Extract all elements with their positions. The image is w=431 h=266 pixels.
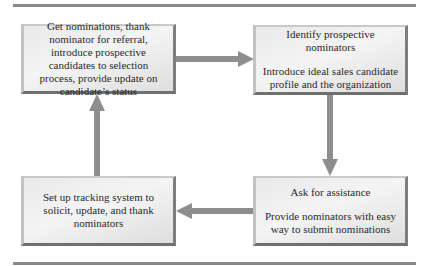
box-identify-detail: Introduce ideal sales candidate profile … xyxy=(262,65,399,91)
box-ask-detail: Provide nominators with easy way to subm… xyxy=(262,210,399,236)
box-tracking-system: Set up tracking system to solicit, updat… xyxy=(21,176,176,246)
arrow-left-icon xyxy=(176,203,253,219)
box-tracking-text: Set up tracking system to solicit, updat… xyxy=(30,191,167,230)
box-identify-nominators: Identify prospective nominators Introduc… xyxy=(253,25,408,95)
box-ask-title: Ask for assistance xyxy=(290,186,370,199)
box-ask-assistance: Ask for assistance Provide nominators wi… xyxy=(253,176,408,246)
box-identify-title: Identify prospective nominators xyxy=(262,28,399,54)
bottom-rule xyxy=(13,262,416,265)
arrow-down-icon xyxy=(322,95,338,176)
box-get-nominations: Get nominations, thank nominator for ref… xyxy=(21,24,176,94)
arrow-up-icon xyxy=(89,94,105,176)
box-get-nominations-text: Get nominations, thank nominator for ref… xyxy=(30,20,167,98)
top-rule xyxy=(13,4,416,7)
arrow-right-icon xyxy=(176,51,254,67)
